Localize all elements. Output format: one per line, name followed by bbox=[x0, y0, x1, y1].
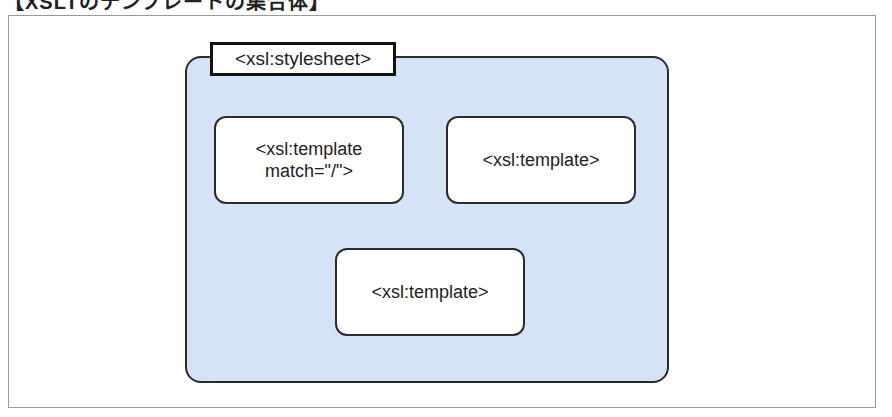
template-node: <xsl:template> bbox=[335, 248, 525, 336]
template-node-label: <xsl:template> bbox=[371, 281, 488, 303]
stylesheet-label: <xsl:stylesheet> bbox=[210, 42, 396, 76]
template-node-root-match: <xsl:template match="/"> bbox=[214, 116, 404, 204]
template-node-line: match="/"> bbox=[256, 160, 363, 182]
template-node: <xsl:template> bbox=[446, 116, 636, 204]
figure-title: 【XSLTのテンプレートの集合体】 bbox=[4, 0, 330, 15]
template-node-line: <xsl:template bbox=[256, 138, 363, 160]
template-node-label: <xsl:template> bbox=[482, 149, 599, 171]
